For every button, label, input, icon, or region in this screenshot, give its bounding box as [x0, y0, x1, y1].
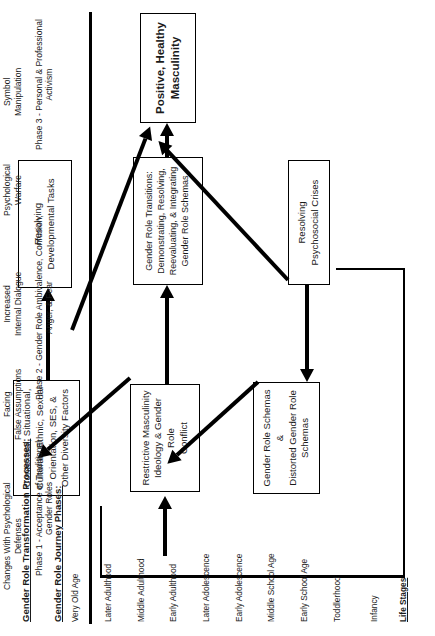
- box-gender-role-schemas-label: Gender Role Schemas &Distorted Gender Ro…: [259, 383, 314, 493]
- legend-phase-3: Phase 3 - Personal & ProfessionalActivis…: [34, 19, 54, 150]
- legend-phase-1: Phase 1 - Acceptance of TraditionalGende…: [34, 441, 54, 576]
- life-stage-toddlerhood: Toddlerhood: [332, 576, 342, 622]
- life-stage-middle-adulthood: Middle Adulthood: [136, 558, 146, 622]
- box-positive-healthy-masculinity: Positive, HealthyMasculinity: [140, 13, 196, 123]
- gender-role-journey-diagram: Positive, HealthyMasculinity ResolvingDe…: [0, 0, 435, 636]
- life-stage-early-adolescence: Early Adolescence: [234, 554, 244, 622]
- box-positive-healthy-masculinity-label: Positive, HealthyMasculinity: [151, 14, 185, 122]
- box-gender-role-schemas: Gender Role Schemas &Distorted Gender Ro…: [253, 382, 320, 494]
- box-resolving-psychosocial-crises: ResolvingPsychosocial Crises: [288, 160, 330, 285]
- legend-process-2: FacingFalse Assumptions: [2, 369, 24, 440]
- axis-bracket-end: [336, 268, 405, 270]
- life-stage-later-adolescence: Later Adolescence: [201, 554, 211, 622]
- box-gender-role-transitions-label: Gender Role Transitions:Demonstrating, R…: [142, 158, 194, 284]
- life-stage-infancy: Infancy: [369, 595, 379, 622]
- life-stage-very-old-age: Very Old Age: [70, 574, 80, 622]
- legend-process-5: SymbolManipulation: [2, 68, 24, 116]
- axis-bracket-bottom: [403, 268, 405, 578]
- life-stage-early-adulthood: Early Adulthood: [168, 564, 178, 622]
- legend-phase-2: Phase 2 - Gender Role Ambivalence, Confu…: [34, 215, 54, 400]
- legend-process-1: Changes With PsychologicalDefenses: [2, 482, 24, 590]
- axis-bracket-top: [100, 506, 102, 578]
- box-restrictive-masculinity-label: Restrictive MasculinityIdeology & Gender…: [138, 385, 193, 491]
- life-stages-header: Life Stages: [398, 578, 408, 622]
- life-stage-early-school-age: Early School Age: [299, 559, 309, 622]
- box-resolving-psychosocial-crises-label: ResolvingPsychosocial Crises: [294, 161, 323, 284]
- legend-process-3: IncreasedInternal Dialogue: [2, 272, 24, 336]
- life-stage-later-adulthood: Later Adulthood: [103, 564, 113, 622]
- legend-process-4: PsychologicalWarfare: [2, 164, 24, 216]
- life-stage-middle-school-age: Middle School Age: [266, 553, 276, 622]
- box-restrictive-masculinity: Restrictive MasculinityIdeology & Gender…: [130, 384, 200, 492]
- legend-divider: [89, 12, 92, 624]
